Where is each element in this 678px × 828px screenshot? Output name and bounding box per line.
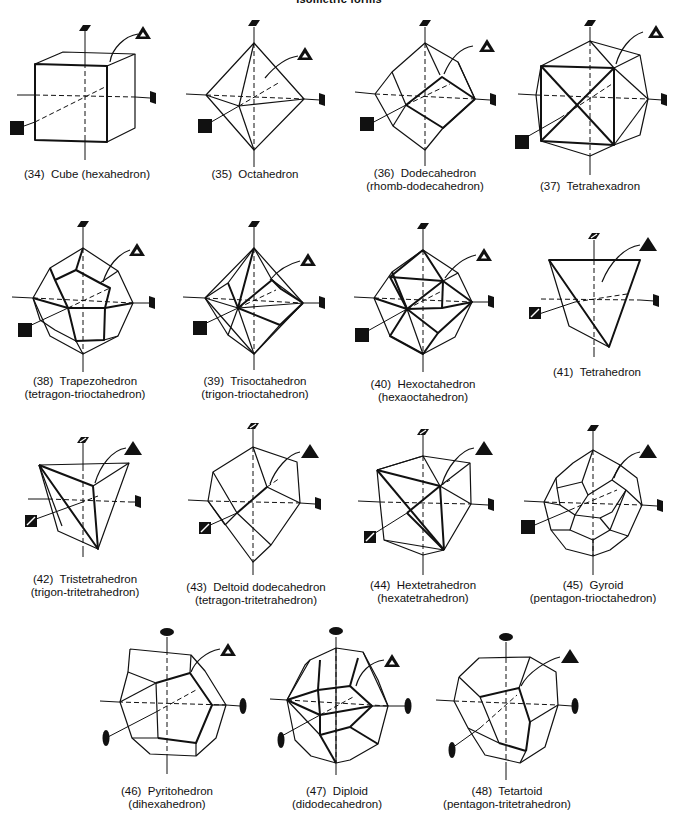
caption-form-34: (34) Cube (hexahedron)	[24, 168, 150, 181]
form-number: (35)	[212, 168, 232, 180]
form-number: (34)	[24, 168, 44, 180]
form-number: (40)	[371, 378, 391, 390]
form-alt-name: (didodecahedron)	[292, 798, 382, 810]
caption-form-44: (44) Hextetrahedron (hexatetrahedron)	[370, 579, 476, 605]
form-name: Deltoid dodecahedron	[213, 581, 326, 593]
form-number: (37)	[540, 180, 560, 192]
form-34-cube	[10, 25, 156, 160]
form-name: Tristetrahedron	[60, 573, 138, 585]
form-alt-name: (rhomb-dodecahedron)	[366, 180, 484, 192]
form-alt-name: (pentagon-tritetrahedron)	[443, 798, 571, 810]
form-number: (36)	[374, 167, 394, 179]
form-45-gyroid	[521, 425, 663, 575]
form-name: Trisoctahedron	[230, 375, 306, 387]
form-43-deltoid-dodecahedron	[188, 423, 321, 575]
form-36-dodecahedron	[355, 20, 496, 166]
form-number: (46)	[121, 785, 141, 797]
form-number: (44)	[370, 579, 390, 591]
form-name: Gyroid	[589, 579, 623, 591]
form-46-pyritohedron	[100, 628, 247, 774]
caption-form-45: (45) Gyroid (pentagon-trioctahedron)	[530, 579, 657, 605]
caption-form-38: (38) Trapezohedron (tetragon-trioctahedr…	[25, 375, 146, 401]
form-name: Hextetrahedron	[397, 579, 476, 591]
caption-form-41: (41) Tetrahedron	[553, 366, 641, 379]
form-name: Dodecahedron	[401, 167, 476, 179]
form-47-diploid	[270, 627, 412, 775]
form-number: (47)	[306, 785, 326, 797]
form-40-hexoctahedron	[354, 223, 494, 372]
form-number: (45)	[563, 579, 583, 591]
form-alt-name: (tetragon-trioctahedron)	[25, 388, 146, 400]
caption-form-46: (46) Pyritohedron (dihexahedron)	[121, 785, 213, 811]
form-42-tristetrahedron	[25, 437, 142, 557]
form-alt-name: (hexaoctahedron)	[378, 391, 468, 403]
form-48-tetartoid	[436, 633, 579, 780]
form-name: Pyritohedron	[148, 785, 213, 797]
form-name: Tetrahedron	[580, 366, 641, 378]
caption-form-39: (39) Trisoctahedron (trigon-trioctahedro…	[201, 375, 308, 401]
form-name: Cube (hexahedron)	[51, 168, 150, 180]
caption-form-35: (35) Octahedron	[212, 168, 299, 181]
form-name: Tetrahexadron	[567, 180, 641, 192]
caption-form-37: (37) Tetrahexadron	[540, 180, 640, 193]
form-name: Trapezohedron	[60, 375, 138, 387]
form-number: (41)	[553, 366, 573, 378]
form-number: (38)	[33, 375, 53, 387]
form-alt-name: (trigon-trioctahedron)	[201, 388, 308, 400]
form-alt-name: (hexatetrahedron)	[377, 592, 468, 604]
caption-form-48: (48) Tetartoid (pentagon-tritetrahedron)	[443, 785, 571, 811]
form-39-trisoctahedron	[183, 221, 325, 370]
form-44-hextetrahedron	[358, 429, 494, 575]
caption-form-36: (36) Dodecahedron (rhomb-dodecahedron)	[366, 167, 484, 193]
two-fold-axis-symbol-icon	[160, 628, 174, 636]
form-number: (43)	[186, 581, 206, 593]
form-35-octahedron	[186, 20, 325, 167]
square-symbol-icon	[10, 121, 24, 135]
form-alt-name: (trigon-tritetrahedron)	[31, 586, 140, 598]
form-number: (42)	[33, 573, 53, 585]
form-name: Hexoctahedron	[397, 378, 475, 390]
form-name: Tetartoid	[498, 785, 542, 797]
form-number: (48)	[472, 785, 492, 797]
caption-form-42: (42) Tristetrahedron (trigon-tritetrahed…	[31, 573, 140, 599]
four-fold-axis-symbol-icon	[79, 25, 91, 31]
caption-form-47: (47) Diploid (didodecahedron)	[292, 785, 382, 811]
form-alt-name: (tetragon-tritetrahedron)	[195, 594, 317, 606]
triangle-symbol-icon	[135, 26, 151, 39]
form-name: Octahedron	[238, 168, 298, 180]
isometric-forms-diagram	[0, 0, 678, 828]
form-alt-name: (pentagon-trioctahedron)	[530, 592, 657, 604]
form-name: Diploid	[333, 785, 368, 797]
caption-form-43: (43) Deltoid dodecahedron (tetragon-trit…	[186, 581, 325, 607]
form-number: (39)	[204, 375, 224, 387]
form-alt-name: (dihexahedron)	[128, 798, 205, 810]
caption-form-40: (40) Hexoctahedron (hexaoctahedron)	[371, 378, 476, 404]
form-41-tetrahedron	[529, 233, 659, 357]
form-38-trapezohedron	[12, 221, 155, 372]
hatched-axis-symbol-icon	[588, 233, 600, 239]
form-37-tetrahexadron	[515, 20, 667, 175]
